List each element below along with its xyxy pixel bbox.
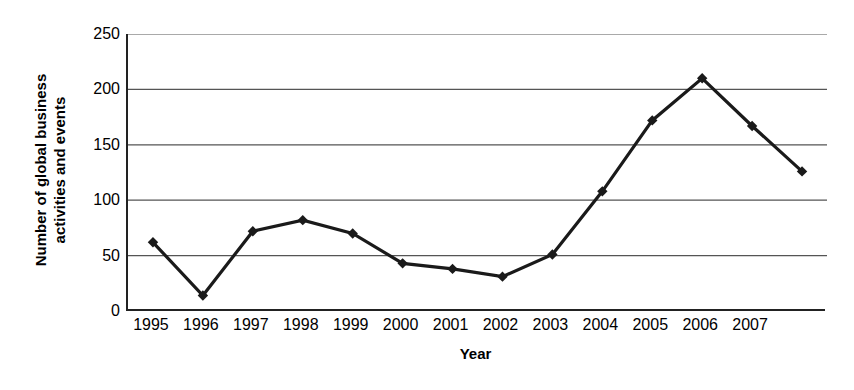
x-axis-tick-label: 1995 xyxy=(133,316,169,334)
y-axis-tick-label: 100 xyxy=(64,191,120,209)
x-axis-tick-label: 1999 xyxy=(333,316,369,334)
y-axis-tick-label: 200 xyxy=(64,80,120,98)
y-axis-tick-label: 50 xyxy=(64,247,120,265)
plot-svg xyxy=(128,34,827,311)
y-axis-tick-label: 0 xyxy=(64,302,120,320)
plot-area xyxy=(126,34,825,311)
y-axis-title-line-1: Number of global business xyxy=(31,74,50,267)
series-markers xyxy=(148,73,807,301)
x-axis-tick-label: 2004 xyxy=(583,316,619,334)
x-axis-title: Year xyxy=(126,345,825,362)
y-axis-tick-label: 250 xyxy=(64,25,120,43)
line-chart: Number of global business activities and… xyxy=(0,0,854,390)
data-point-marker xyxy=(447,264,457,274)
x-axis-tick-labels: 1995199619971998199920002001200220032004… xyxy=(126,316,825,340)
x-axis-tick-label: 2005 xyxy=(632,316,668,334)
series-line xyxy=(153,78,802,295)
x-axis-tick-label: 1998 xyxy=(283,316,319,334)
x-axis-tick-label: 1996 xyxy=(183,316,219,334)
x-axis-tick-label: 2003 xyxy=(533,316,569,334)
data-point-marker xyxy=(298,215,308,225)
y-axis-tick-labels: 050100150200250 xyxy=(62,0,120,390)
y-axis-tick-label: 150 xyxy=(64,136,120,154)
x-axis-tick-label: 2006 xyxy=(682,316,718,334)
x-axis-tick-label: 2002 xyxy=(483,316,519,334)
gridlines xyxy=(128,34,827,256)
x-axis-tick-label: 1997 xyxy=(233,316,269,334)
x-axis-tick-label: 2007 xyxy=(732,316,768,334)
x-axis-tick-label: 2000 xyxy=(383,316,419,334)
data-point-marker xyxy=(497,271,507,281)
x-axis-tick-label: 2001 xyxy=(433,316,469,334)
